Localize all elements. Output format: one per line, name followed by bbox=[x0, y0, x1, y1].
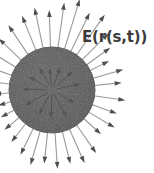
exterior-arrow-8-head bbox=[116, 69, 123, 73]
exterior-arrow-8-shaft bbox=[90, 72, 116, 79]
exterior-arrow-29-shaft bbox=[4, 43, 23, 62]
exterior-arrow-0-head bbox=[47, 10, 52, 17]
exterior-arrow-19-head bbox=[30, 158, 34, 165]
vector-field-figure: E(r(s,t)) bbox=[0, 0, 154, 173]
field-label-E-of-r-s-t: E(r(s,t)) bbox=[82, 30, 147, 45]
exterior-arrow-10-head bbox=[118, 97, 125, 102]
interior-arrow-8-shaft bbox=[28, 89, 46, 90]
exterior-arrow-31-head bbox=[22, 16, 27, 23]
exterior-arrow-9-head bbox=[114, 81, 121, 86]
exterior-arrow-30-shaft bbox=[12, 31, 29, 57]
exterior-arrow-10-shaft bbox=[92, 96, 119, 100]
exterior-arrow-11-head bbox=[109, 109, 116, 114]
exterior-arrow-20-shaft bbox=[24, 126, 35, 148]
exterior-arrow-15-head bbox=[80, 156, 85, 163]
exterior-arrow-12-shaft bbox=[86, 111, 108, 124]
exterior-arrow-4-head bbox=[99, 15, 105, 22]
exterior-arrow-23-head bbox=[1, 112, 8, 117]
exterior-arrow-32-shaft bbox=[36, 15, 44, 51]
exterior-arrow-0-shaft bbox=[49, 17, 50, 50]
exterior-arrow-2-shaft bbox=[64, 6, 78, 52]
exterior-arrow-30-head bbox=[8, 25, 14, 32]
surface-layer bbox=[9, 47, 95, 133]
exterior-arrow-25-head bbox=[0, 91, 1, 96]
exterior-arrow-18-shaft bbox=[45, 130, 48, 157]
exterior-arrow-3-head bbox=[85, 13, 90, 20]
exterior-arrow-17-shaft bbox=[55, 130, 57, 162]
sphere-blob bbox=[9, 47, 95, 133]
exterior-arrow-14-shaft bbox=[75, 123, 92, 148]
exterior-arrow-1-head bbox=[61, 3, 66, 10]
exterior-arrow-17-head bbox=[55, 162, 60, 169]
exterior-arrow-16-head bbox=[66, 156, 70, 163]
exterior-arrow-2-head bbox=[76, 0, 80, 7]
exterior-arrow-32-head bbox=[34, 8, 39, 15]
exterior-arrow-19-shaft bbox=[32, 128, 41, 158]
exterior-arrow-6-head bbox=[103, 48, 110, 54]
exterior-arrow-15-shaft bbox=[68, 127, 81, 157]
exterior-arrow-18-head bbox=[43, 156, 48, 163]
vector-field-canvas bbox=[0, 0, 154, 173]
exterior-arrow-1-shaft bbox=[58, 10, 64, 51]
exterior-arrow-12-head bbox=[107, 122, 114, 128]
exterior-arrow-31-shaft bbox=[25, 22, 37, 53]
interior-arrow-5-shaft bbox=[51, 94, 52, 112]
exterior-arrow-20-head bbox=[20, 147, 25, 154]
exterior-arrow-24-head bbox=[0, 101, 6, 105]
exterior-arrow-16-shaft bbox=[62, 129, 69, 157]
exterior-arrow-14-head bbox=[90, 146, 96, 153]
exterior-arrow-7-head bbox=[102, 61, 109, 66]
